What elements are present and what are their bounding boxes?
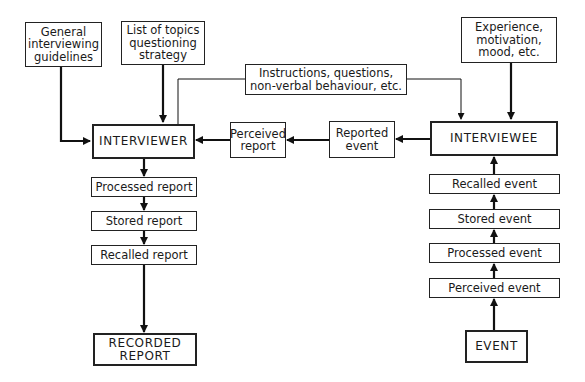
- perceived-report-box: Perceived report: [230, 122, 286, 158]
- recorded-report-label: RECORDED REPORT: [109, 337, 182, 362]
- topics-strategy-box: List of topics questioning strategy: [121, 21, 205, 65]
- interviewee-box: INTERVIEWEE: [430, 121, 558, 156]
- recalled-event-label: Recalled event: [452, 178, 537, 191]
- interviewer-box: INTERVIEWER: [92, 124, 195, 159]
- general-guidelines-label: General interviewing guidelines: [28, 26, 99, 64]
- arrow-instructions-to-interviewee: [406, 79, 461, 119]
- perceived-event-label: Perceived event: [448, 282, 540, 295]
- experience-box: Experience, motivation, mood, etc.: [461, 17, 557, 63]
- instructions-label: Instructions, questions, non-verbal beha…: [250, 67, 402, 92]
- topics-strategy-label: List of topics questioning strategy: [127, 24, 200, 62]
- experience-label: Experience, motivation, mood, etc.: [475, 21, 543, 59]
- arrow-instructions-line: [178, 79, 245, 124]
- processed-report-box: Processed report: [91, 177, 197, 197]
- general-guidelines-box: General interviewing guidelines: [25, 22, 102, 67]
- reported-event-box: Reported event: [329, 121, 395, 158]
- perceived-report-label: Perceived report: [230, 128, 286, 153]
- event-label: EVENT: [475, 340, 518, 353]
- interviewer-label: INTERVIEWER: [99, 135, 188, 148]
- processed-event-label: Processed event: [447, 247, 541, 260]
- recalled-report-label: Recalled report: [100, 249, 187, 262]
- stored-event-label: Stored event: [457, 213, 531, 226]
- processed-report-label: Processed report: [96, 181, 193, 194]
- recalled-event-box: Recalled event: [429, 174, 560, 194]
- recorded-report-box: RECORDED REPORT: [93, 333, 197, 366]
- processed-event-box: Processed event: [429, 243, 560, 263]
- stored-report-label: Stored report: [106, 215, 182, 228]
- instructions-box: Instructions, questions, non-verbal beha…: [245, 64, 407, 95]
- recalled-report-box: Recalled report: [91, 245, 197, 265]
- interviewee-label: INTERVIEWEE: [450, 132, 538, 145]
- arrow-guidelines-to-interviewer: [61, 66, 90, 141]
- perceived-event-box: Perceived event: [429, 278, 560, 298]
- stored-report-box: Stored report: [91, 211, 197, 231]
- event-box: EVENT: [465, 330, 528, 363]
- stored-event-box: Stored event: [429, 209, 560, 229]
- reported-event-label: Reported event: [336, 127, 389, 152]
